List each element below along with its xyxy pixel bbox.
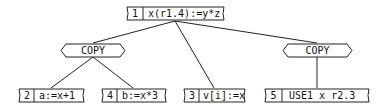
node-label: COPY	[60, 43, 126, 58]
node-3: 3 v[i]:=x	[183, 88, 246, 103]
node-2: 2 a:=x+1	[18, 88, 85, 103]
node-label: USE1 x r2.3	[289, 88, 355, 103]
node-label: x(r1.4):=y*z	[148, 6, 220, 21]
node-index: 5	[267, 88, 280, 103]
node-4: 4 b:=x*3	[101, 88, 167, 103]
node-label: COPY	[282, 43, 353, 58]
node-index: 3	[186, 88, 198, 103]
node-copy-right: COPY	[282, 43, 353, 58]
node-label: a:=x+1	[39, 88, 75, 103]
node-index: 2	[21, 88, 33, 103]
node-root: 1 x(r1.4):=y*z	[126, 6, 225, 21]
node-copy-left: COPY	[60, 43, 126, 58]
node-label: b:=x*3	[122, 88, 158, 103]
node-index: 1	[129, 6, 141, 21]
node-index: 4	[104, 88, 116, 103]
node-label: v[i]:=x	[203, 88, 245, 103]
node-5: 5 USE1 x r2.3	[264, 88, 370, 103]
